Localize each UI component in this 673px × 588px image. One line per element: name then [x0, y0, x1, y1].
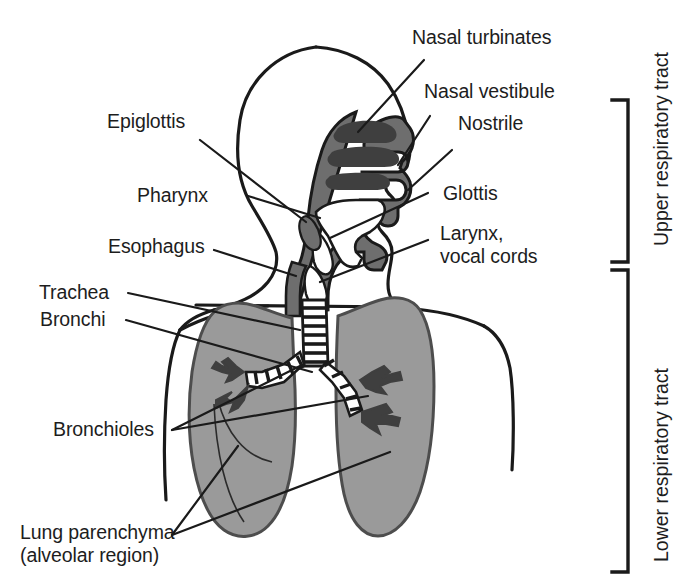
label-lung-parenchyma-line2: (alveolar region) — [20, 544, 159, 567]
label-bronchioles: Bronchioles — [53, 418, 154, 441]
label-nasal-vestibule: Nasal vestibule — [424, 80, 555, 103]
turbinate-shelf-lower — [326, 173, 391, 190]
left-lung-shape — [189, 303, 295, 536]
lower-tract-bracket — [612, 270, 628, 572]
label-trachea: Trachea — [39, 281, 109, 304]
torso-right-side-outline — [484, 326, 513, 470]
label-larynx-line2: vocal cords — [440, 245, 538, 268]
label-glottis: Glottis — [443, 182, 498, 205]
turbinate-shelf-middle — [328, 147, 400, 167]
trachea-group — [302, 300, 328, 366]
label-lower-respiratory-tract: Lower respiratory tract — [650, 368, 673, 562]
label-larynx-line1: Larynx, — [440, 222, 503, 245]
label-upper-respiratory-tract: Upper respiratory tract — [650, 52, 673, 246]
label-lung-parenchyma-line1: Lung parenchyma — [20, 521, 175, 544]
label-pharynx: Pharynx — [137, 184, 208, 207]
upper-tract-bracket — [612, 100, 628, 262]
tract-brackets-group — [612, 100, 628, 572]
label-esophagus: Esophagus — [108, 235, 205, 258]
trachea-tube — [302, 300, 328, 366]
trachea-cartilage-rings — [303, 308, 328, 362]
label-epiglottis: Epiglottis — [107, 110, 185, 133]
label-bronchi: Bronchi — [40, 308, 105, 331]
label-nostrile: Nostrile — [458, 112, 523, 135]
label-nasal-turbinates: Nasal turbinates — [412, 26, 551, 49]
leader-esophagus — [214, 250, 296, 276]
torso-left-side-outline — [165, 330, 181, 500]
